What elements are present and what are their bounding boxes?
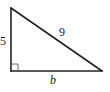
right-angle-marker-icon [11, 64, 18, 71]
vertical-leg-label: 5 [0, 34, 6, 48]
hypotenuse-edge [11, 8, 102, 71]
hypotenuse-label: 9 [59, 25, 65, 39]
horizontal-leg-label: b [50, 73, 56, 87]
right-triangle-diagram: 5 9 b [0, 0, 110, 92]
triangle [11, 8, 102, 71]
